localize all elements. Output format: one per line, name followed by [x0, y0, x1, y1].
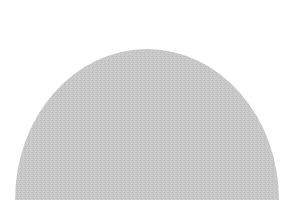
semicircle-graphic	[0, 0, 305, 221]
half-ellipse-shape	[15, 49, 279, 200]
canvas	[0, 0, 305, 221]
